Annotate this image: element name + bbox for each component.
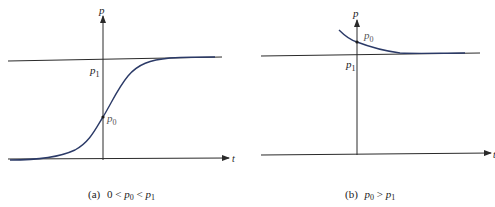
initial-label: p0 [106, 112, 117, 127]
initial-point [101, 115, 104, 118]
panel-a: p t p1 p0 (a) 0 < p0 < p1 [8, 4, 235, 202]
equilibrium-label: p1 [345, 58, 356, 73]
equilibrium-label: p1 [89, 64, 100, 79]
logistic-diagrams: p t p1 p0 (a) 0 < p0 < p1 p t p1 p0 [0, 0, 495, 207]
caption-b: (b) p0 > p1 [345, 188, 395, 202]
y-axis-label: p [98, 4, 105, 16]
caption-a: (a) 0 < p0 < p1 [88, 188, 155, 202]
x-axis-label: t [232, 153, 235, 164]
initial-point [355, 40, 358, 43]
logistic-curve [10, 57, 215, 160]
y-axis-label: p [352, 7, 359, 19]
t-axis [261, 153, 491, 155]
panel-b: p t p1 p0 (b) p0 > p1 [261, 7, 495, 202]
initial-label: p0 [363, 29, 374, 44]
